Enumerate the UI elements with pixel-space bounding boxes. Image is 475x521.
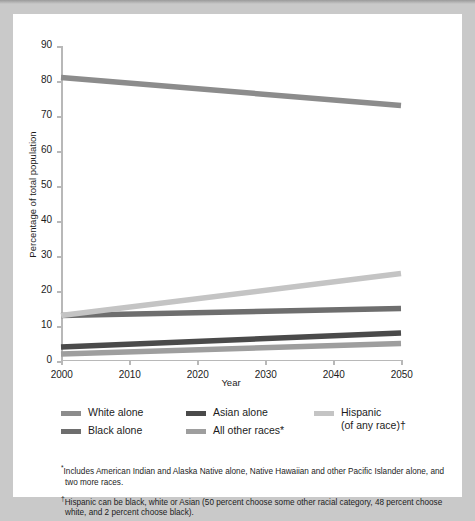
legend-label: All other races*	[213, 424, 284, 437]
legend-item[interactable]: White alone	[61, 406, 143, 419]
y-tick-label: 30	[41, 249, 52, 260]
x-tick-label: 2030	[255, 369, 277, 380]
x-tick-label: 2020	[187, 369, 209, 380]
series-line-white-alone	[61, 78, 401, 106]
plot-container: Percentage of total population Year 0102…	[13, 14, 462, 404]
legend-item[interactable]: Hispanic (of any race)†	[314, 406, 406, 432]
y-tick-label: 10	[41, 319, 52, 330]
series-lines	[61, 46, 401, 361]
legend-item[interactable]: All other races*	[186, 424, 284, 437]
legend-swatch-black-alone	[61, 429, 81, 434]
y-tick-label: 70	[41, 109, 52, 120]
legend-label: White alone	[88, 406, 143, 419]
x-axis-title: Year	[61, 377, 401, 388]
y-axis-title: Percentage of total population	[27, 110, 38, 280]
legend-column-3: Hispanic (of any race)†	[314, 406, 406, 437]
footnote-marker: *	[61, 464, 64, 471]
y-tick-label: 20	[41, 284, 52, 295]
footnotes: *Includes American Indian and Alaska Nat…	[61, 462, 451, 521]
y-tick-label: 90	[41, 39, 52, 50]
y-tick-label: 80	[41, 74, 52, 85]
x-tick-label: 2050	[391, 369, 413, 380]
legend-column-1: White aloneBlack alone	[61, 406, 143, 442]
x-tick-label: 2040	[323, 369, 345, 380]
x-tick-2050: 2050	[401, 360, 403, 365]
legend-swatch-all-other-races	[186, 429, 206, 434]
y-tick-label: 40	[41, 214, 52, 225]
window-top-edge	[0, 0, 475, 4]
legend-item[interactable]: Asian alone	[186, 406, 284, 419]
x-tick-label: 2010	[119, 369, 141, 380]
y-tick-label: 60	[41, 144, 52, 155]
legend-swatch-asian-alone	[186, 411, 206, 416]
chart-figure: Percentage of total population Year 0102…	[13, 14, 462, 497]
legend-swatch-white-alone	[61, 411, 81, 416]
footnote-1: *Includes American Indian and Alaska Nat…	[61, 462, 451, 488]
footnote-marker: †	[61, 495, 65, 502]
footnote-2: †Hispanic can be black, white or Asian (…	[61, 493, 451, 519]
y-tick-label: 0	[46, 354, 52, 365]
plot-area: 0102030405060708090 20002010202020302040…	[61, 46, 401, 361]
y-tick-label: 50	[41, 179, 52, 190]
x-tick-label: 2000	[51, 369, 73, 380]
legend-column-2: Asian aloneAll other races*	[186, 406, 284, 442]
legend-label: Asian alone	[213, 406, 268, 419]
legend-swatch-hispanic	[314, 411, 334, 416]
legend-label: Hispanic (of any race)†	[341, 406, 406, 432]
legend-label: Black alone	[88, 424, 142, 437]
legend-item[interactable]: Black alone	[61, 424, 143, 437]
